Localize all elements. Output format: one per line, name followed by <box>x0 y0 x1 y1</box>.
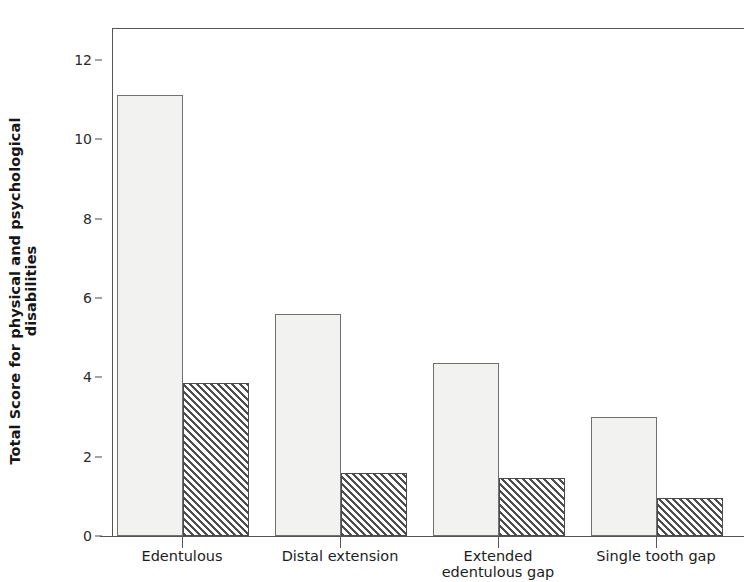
y-axis-tick-label: 4 <box>83 369 92 385</box>
x-axis-tick-mark <box>498 537 499 548</box>
x-axis-tick-mark <box>656 537 657 548</box>
x-axis-line <box>100 536 744 537</box>
x-axis-category-label: Extendededentulous gap <box>442 549 555 581</box>
y-axis-tick-mark <box>95 218 102 219</box>
y-axis-tick-mark <box>95 59 102 60</box>
bar-hatched-3 <box>657 498 723 536</box>
x-axis-category-label-line: Single tooth gap <box>596 548 715 564</box>
x-axis-category-label: Distal extension <box>282 549 399 565</box>
y-axis-tick-label: 2 <box>83 449 92 465</box>
y-axis-tick-mark <box>95 297 102 298</box>
bar-hatched-2 <box>499 478 565 536</box>
y-axis-title-line-2: disabilities <box>23 117 39 464</box>
y-axis-tick-label: 0 <box>83 528 92 544</box>
y-axis-tick-label: 6 <box>83 290 92 306</box>
y-axis-ticks: 024681012 <box>62 0 102 582</box>
bar-open-3 <box>591 417 657 536</box>
y-axis-title: Total Score for physical and psychologic… <box>0 0 46 582</box>
x-axis-category-label: Edentulous <box>142 549 223 565</box>
x-axis-category-label-line: Edentulous <box>142 548 223 564</box>
bar-open-2 <box>433 363 499 536</box>
y-axis-tick-label: 12 <box>74 52 92 68</box>
y-axis-title-line-1: Total Score for physical and psychologic… <box>7 117 23 464</box>
x-axis-category-label-line: Distal extension <box>282 548 399 564</box>
x-axis-category-label-line: Extended <box>464 548 533 564</box>
y-axis-tick-label: 8 <box>83 211 92 227</box>
x-axis-category-label-line: edentulous gap <box>442 565 555 581</box>
x-axis-category-label: Single tooth gap <box>596 549 715 565</box>
plot-area <box>112 28 744 536</box>
bar-open-0 <box>117 95 183 536</box>
bar-open-1 <box>275 314 341 536</box>
y-axis-tick-mark <box>95 377 102 378</box>
bar-hatched-1 <box>341 473 407 537</box>
y-axis-tick-mark <box>95 456 102 457</box>
bar-hatched-0 <box>183 383 249 536</box>
x-axis-tick-mark <box>182 537 183 548</box>
y-axis-tick-label: 10 <box>74 131 92 147</box>
bar-chart-figure: Total Score for physical and psychologic… <box>0 0 744 582</box>
x-axis-tick-mark <box>340 537 341 548</box>
y-axis-tick-mark <box>95 139 102 140</box>
